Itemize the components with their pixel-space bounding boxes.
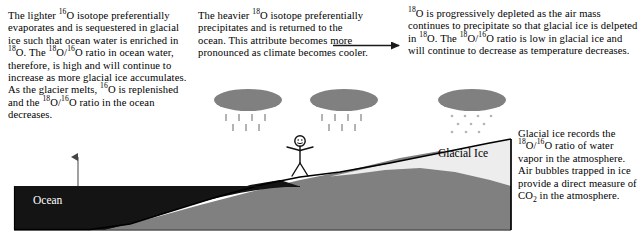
- cloud-left: [214, 89, 282, 131]
- progressive-depletion-note: 18O is progressively depleted as the air…: [408, 8, 640, 58]
- cloud-middle: [310, 89, 378, 131]
- ocean-label: Ocean: [33, 194, 62, 206]
- rain-middle: [322, 114, 361, 131]
- ocean-enrichment-note: The lighter 16O isotope preferentially e…: [8, 10, 193, 122]
- snow-right: [451, 115, 493, 134]
- glacial-ice-label: Glacial Ice: [438, 147, 488, 159]
- rain-left: [226, 114, 265, 131]
- isotope-diagram-page: The lighter 16O isotope preferentially e…: [0, 0, 644, 240]
- glacial-ice-record-note: Glacial ice records the 18O/16O ratio of…: [518, 128, 640, 202]
- cloud-right: [438, 89, 506, 133]
- heavier-isotope-precipitation-note: The heavier 18O isotope preferentially p…: [198, 10, 373, 60]
- stick-figure-observer: [287, 136, 313, 176]
